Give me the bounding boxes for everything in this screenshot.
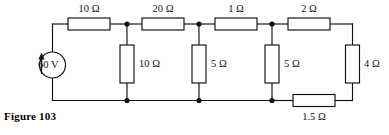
- junction-node-1-top: [124, 21, 129, 26]
- resistor-5-ohm-shunt-b: [265, 45, 279, 83]
- label-resistor-10-ohm-top: 10 Ω: [79, 4, 100, 15]
- label-resistor-5-ohm-shunt-a: 5 Ω: [211, 59, 227, 70]
- label-resistor-1-ohm-top: 1 Ω: [228, 4, 244, 15]
- label-resistor-20-ohm-top: 20 Ω: [153, 4, 174, 15]
- circuit-figure: 60 V 10 Ω 20 Ω 1 Ω 2 Ω 10 Ω 5 Ω 5 Ω 4 Ω …: [0, 0, 389, 135]
- junction-node-2-bottom: [196, 98, 201, 103]
- resistor-5-ohm-shunt-a: [192, 45, 206, 83]
- figure-caption: Figure 103: [4, 110, 56, 122]
- resistor-10-ohm-top: [68, 18, 110, 30]
- junction-node-3-top: [269, 21, 274, 26]
- resistor-10-ohm-shunt: [120, 45, 134, 83]
- label-resistor-10-ohm-shunt: 10 Ω: [139, 59, 160, 70]
- junction-node-2-top: [196, 21, 201, 26]
- junction-node-1-bottom: [124, 98, 129, 103]
- label-resistor-4-ohm-right: 4 Ω: [364, 59, 380, 70]
- voltage-source-label: 60 V: [38, 60, 59, 71]
- resistor-1-ohm-top: [215, 18, 257, 30]
- label-resistor-1point5-ohm-bottom: 1.5 Ω: [302, 112, 326, 123]
- resistor-4-ohm-right: [346, 45, 360, 83]
- label-resistor-2-ohm-top: 2 Ω: [301, 4, 317, 15]
- label-resistor-5-ohm-shunt-b: 5 Ω: [284, 59, 300, 70]
- resistor-1point5-ohm-bottom: [293, 95, 335, 107]
- junction-node-3-bottom: [269, 98, 274, 103]
- resistor-2-ohm-top: [288, 18, 330, 30]
- resistor-20-ohm-top: [142, 18, 184, 30]
